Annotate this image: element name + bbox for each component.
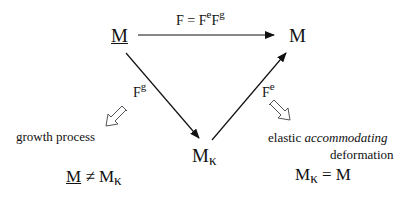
elastic-tensor-label: Fe — [262, 86, 275, 100]
elastic-hollow-arrow-icon — [269, 100, 290, 120]
elastic-arrow — [212, 53, 286, 140]
elastic-relation: Mκ = M — [295, 166, 351, 183]
current-config-node: M — [289, 26, 306, 45]
current-config-label: M — [289, 25, 306, 46]
arrows-layer — [0, 0, 417, 199]
growth-tensor-label: Fg — [133, 86, 146, 100]
reference-config-label: M — [111, 25, 128, 46]
growth-relation: M ≠ Mκ — [66, 168, 122, 185]
reference-config-node: M — [111, 26, 128, 45]
growth-hollow-arrow-icon — [106, 106, 127, 126]
elastic-label-line1: elastic accommodating — [268, 131, 388, 144]
elastic-label-line2: deformation — [330, 148, 394, 161]
growth-process-label: growth process — [16, 130, 95, 143]
intermediate-config-node: Mκ — [192, 146, 216, 165]
total-deformation-label: F = FeFg — [176, 14, 225, 28]
